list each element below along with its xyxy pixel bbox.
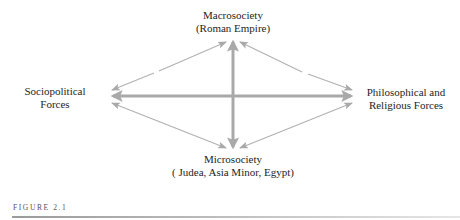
node-macrosociety-subtitle: (Roman Empire) (173, 22, 293, 35)
node-microsociety-title: Microsociety (158, 153, 308, 166)
node-macrosociety: Macrosociety (Roman Empire) (173, 9, 293, 35)
caption-divider (12, 216, 460, 218)
figure-caption: FIGURE 2.1 (13, 203, 67, 212)
node-sociopolitical-line2: Forces (0, 98, 110, 111)
forces-diagram: Macrosociety (Roman Empire) Sociopolitic… (0, 0, 460, 200)
arrow-sociopolitical-micro (112, 103, 226, 148)
arrow-macro-philosophical (240, 42, 352, 90)
node-philosophical-religious-forces: Philosophical and Religious Forces (352, 86, 460, 112)
arrow-macro-sociopolitical (112, 42, 226, 90)
node-macrosociety-title: Macrosociety (173, 9, 293, 22)
arrow-philosophical-micro (240, 103, 352, 148)
node-philosophical-line2: Religious Forces (352, 99, 460, 112)
node-philosophical-line1: Philosophical and (352, 86, 460, 99)
node-microsociety-subtitle: ( Judea, Asia Minor, Egypt) (158, 166, 308, 179)
node-sociopolitical-line1: Sociopolitical (0, 85, 110, 98)
node-sociopolitical-forces: Sociopolitical Forces (0, 85, 110, 111)
node-microsociety: Microsociety ( Judea, Asia Minor, Egypt) (158, 153, 308, 179)
